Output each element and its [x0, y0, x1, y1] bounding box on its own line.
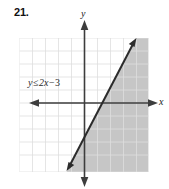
y-axis-label: y [81, 9, 85, 19]
coordinate-plane [0, 0, 169, 189]
inequality-graph-figure: 21. [0, 0, 169, 189]
inequality-rhs-term: 2x [39, 77, 48, 88]
inequality-label: y≤2x−3 [28, 78, 60, 88]
inequality-constant: 3 [55, 77, 60, 88]
x-axis-label: x [159, 97, 163, 107]
